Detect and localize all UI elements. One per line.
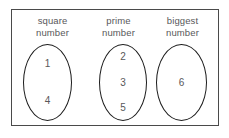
number-item: 2 xyxy=(120,51,126,62)
group-label-biggest-number: biggest number xyxy=(145,15,220,38)
number-item: 4 xyxy=(45,95,51,106)
number-item: 5 xyxy=(120,102,126,113)
group-label-line1: biggest xyxy=(167,15,198,26)
ellipse-contents: 1 4 xyxy=(24,45,71,120)
number-item: 1 xyxy=(45,58,51,69)
ellipse-contents: 2 3 5 xyxy=(100,45,146,120)
diagram-canvas: square number 1 4 prime number 2 3 5 xyxy=(0,0,229,138)
group-label-line2: number xyxy=(145,27,220,39)
ellipse-prime-number: 2 3 5 xyxy=(99,44,147,121)
ellipse-contents: 6 xyxy=(157,45,206,120)
number-item: 3 xyxy=(120,77,126,88)
diagram-outer-border: square number 1 4 prime number 2 3 5 xyxy=(11,9,219,126)
ellipse-biggest-number: 6 xyxy=(156,44,207,121)
group-label-line1: square xyxy=(38,15,68,26)
ellipse-square-number: 1 4 xyxy=(23,44,72,121)
group-label-line1: prime xyxy=(106,15,130,26)
group-biggest-number: biggest number 6 xyxy=(145,10,220,127)
number-item: 6 xyxy=(179,77,185,88)
